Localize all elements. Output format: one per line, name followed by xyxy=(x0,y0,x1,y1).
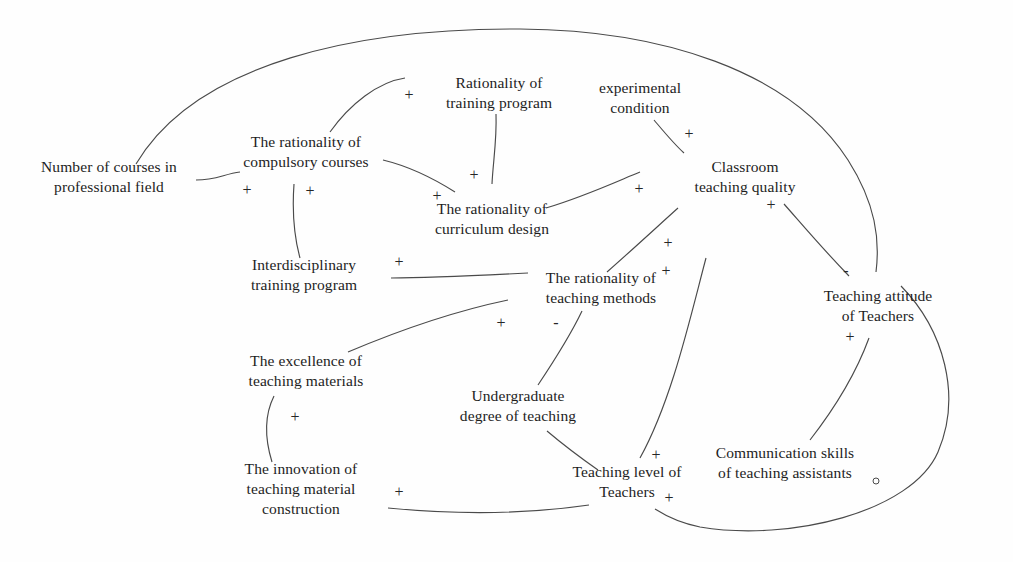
polarity-sign-e2: - xyxy=(843,263,848,279)
edge-excellence-to-teaching-methods xyxy=(348,300,508,352)
node-num_courses: Number of courses in professional field xyxy=(41,157,177,197)
edge-training-program-to-curriculum xyxy=(492,114,496,184)
node-innovation: The innovation of teaching material cons… xyxy=(245,459,358,518)
edge-interdisciplinary-to-compulsory xyxy=(293,184,300,258)
node-excellence: The excellence of teaching materials xyxy=(249,351,364,391)
polarity-sign-e15: + xyxy=(290,409,299,425)
polarity-sign-e10: + xyxy=(661,263,670,279)
node-undergrad_degree: Undergraduate degree of teaching xyxy=(460,386,576,426)
edge-experimental-to-classroom-quality xyxy=(654,120,684,153)
edge-teaching-attitude-to-classroom-quality xyxy=(784,204,849,276)
stray-dot-mark xyxy=(873,478,880,485)
edge-communication-to-teaching-attitude xyxy=(810,338,869,440)
polarity-sign-e9: + xyxy=(663,235,672,251)
polarity-sign-e11: + xyxy=(766,197,775,213)
node-training_program: Rationality of training program xyxy=(446,73,552,113)
polarity-sign-e13: + xyxy=(496,315,505,331)
node-experimental: experimental condition xyxy=(599,78,681,118)
polarity-sign-e8: + xyxy=(634,181,643,197)
polarity-sign-e14: - xyxy=(553,315,558,331)
edge-teaching-methods-to-interdisciplinary xyxy=(391,273,528,278)
node-communication: Communication skills of teaching assista… xyxy=(716,443,855,483)
polarity-sign-e16: + xyxy=(651,447,660,463)
causal-loop-diagram: Number of courses in professional fieldT… xyxy=(0,0,1013,562)
node-classroom_quality: Classroom teaching quality xyxy=(694,157,795,197)
polarity-sign-e5: + xyxy=(469,167,478,183)
edge-teaching-level-to-innovation xyxy=(388,505,589,513)
polarity-sign-e6: + xyxy=(305,183,314,199)
edge-innovation-to-excellence xyxy=(267,396,274,462)
edge-num-courses-to-compulsory xyxy=(196,172,240,180)
polarity-sign-e19: + xyxy=(664,490,673,506)
node-compulsory: The rationality of compulsory courses xyxy=(243,132,368,172)
polarity-sign-e4: + xyxy=(432,188,441,204)
node-curriculum: The rationality of curriculum design xyxy=(435,199,549,239)
polarity-sign-e18: + xyxy=(845,329,854,345)
polarity-sign-e3: + xyxy=(404,87,413,103)
polarity-sign-e17: + xyxy=(394,484,403,500)
polarity-sign-e7: + xyxy=(684,126,693,142)
edge-curriculum-to-classroom-quality xyxy=(546,172,640,208)
polarity-sign-e12: + xyxy=(394,254,403,270)
polarity-sign-e1: + xyxy=(242,182,251,198)
edge-compulsory-to-training-program xyxy=(330,78,405,132)
edge-compulsory-to-curriculum xyxy=(383,160,455,192)
node-interdisciplinary: Interdisciplinary training program xyxy=(251,255,357,295)
node-teaching_attitude: Teaching attitude of Teachers xyxy=(824,286,933,326)
node-teaching_methods: The rationality of teaching methods xyxy=(546,268,657,308)
edge-undergrad-degree-to-teaching-methods xyxy=(538,311,582,385)
